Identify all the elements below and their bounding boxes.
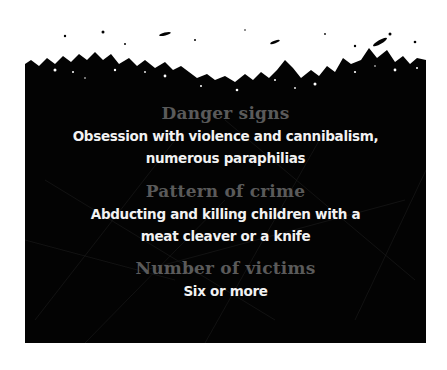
section-text-danger-signs-line-2: numerous paraphilias [25,147,426,169]
section-text-danger-signs-line-1: Obsession with violence and cannibalism, [25,125,426,147]
section-text-number-of-victims: Six or more [25,280,426,302]
section-heading-pattern-of-crime: Pattern of crime [25,181,426,201]
section-heading-danger-signs: Danger signs [25,103,426,123]
info-card: Danger signs Obsession with violence and… [25,20,426,343]
section-heading-number-of-victims: Number of victims [25,258,426,278]
section-text-pattern-of-crime-line-1: Abducting and killing children with a [25,203,426,225]
section-text-pattern-of-crime-line-2: meat cleaver or a knife [25,225,426,247]
